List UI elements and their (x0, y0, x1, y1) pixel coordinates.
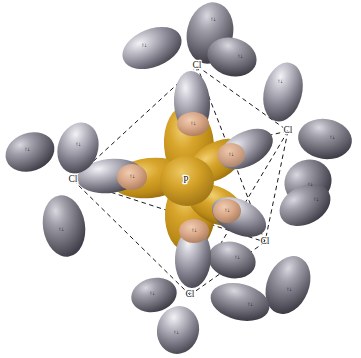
atom-label-chlorine-right: Cl (284, 125, 293, 135)
atom-label-chlorine-bottom: Cl (186, 289, 195, 299)
lone-pair-label: ↑↓ (210, 15, 216, 22)
lone-pair-label: ↑↓ (141, 41, 147, 48)
cl-lowerright-lobe-left (204, 237, 259, 284)
lone-pair-label: ↑↓ (247, 300, 253, 307)
cl-right-lobe-up (257, 58, 308, 125)
lone-pair-label: ↑↓ (277, 77, 283, 84)
cl-right-lobe-outright (295, 115, 354, 162)
lone-pair-label: ↑↓ (24, 145, 30, 152)
lone-pair-label: ↑↓ (307, 180, 313, 187)
cl-left-lobe-upleft (0, 126, 60, 178)
lone-pair-label: ↑↓ (286, 285, 292, 292)
lone-pair-label: ↑↓ (149, 289, 155, 296)
cl-top-lobe-upleft (116, 19, 188, 77)
chlorine-atom-bottom (128, 219, 274, 358)
atom-label-chlorine-top: Cl (193, 60, 202, 70)
cl-left-lobe-down (38, 192, 89, 260)
chlorine-atom-top (116, 0, 261, 136)
lone-pair-label: ↑↓ (173, 328, 179, 335)
atom-label-phosphorus: P (183, 175, 188, 185)
pcl5-orbital-diagram: ↑↓ ↑↓ ↑↓ ↑↓ ↑↓ ↑↓ ↑↓ ↑↓ ↑↓ ↑↓ ↑↓ ↑↓ ↑↓ ↑… (0, 0, 361, 358)
lone-pair-label: ↑↓ (75, 140, 81, 147)
bonding-pair-label: ↑↓ (228, 150, 234, 157)
lone-pair-label: ↑↓ (237, 52, 243, 59)
chlorine-atom-left (0, 117, 147, 260)
bonding-pair-label: ↑↓ (129, 172, 135, 179)
lone-pair-label: ↑↓ (313, 195, 319, 202)
lone-pair-label: ↑↓ (234, 253, 240, 260)
atom-label-chlorine-lower-right: Cl (261, 236, 270, 246)
lone-pair-label: ↑↓ (329, 133, 335, 140)
bonding-pair-label: ↑↓ (191, 226, 197, 233)
bonding-pair-label: ↑↓ (224, 206, 230, 213)
cl-bottom-lobe-right (207, 277, 274, 326)
atom-label-chlorine-left: Cl (69, 174, 78, 184)
diagram-canvas: ↑↓ ↑↓ ↑↓ ↑↓ ↑↓ ↑↓ ↑↓ ↑↓ ↑↓ ↑↓ ↑↓ ↑↓ ↑↓ ↑… (0, 0, 361, 358)
bonding-pair-label: ↑↓ (190, 119, 196, 126)
lone-pair-label: ↑↓ (58, 225, 64, 232)
